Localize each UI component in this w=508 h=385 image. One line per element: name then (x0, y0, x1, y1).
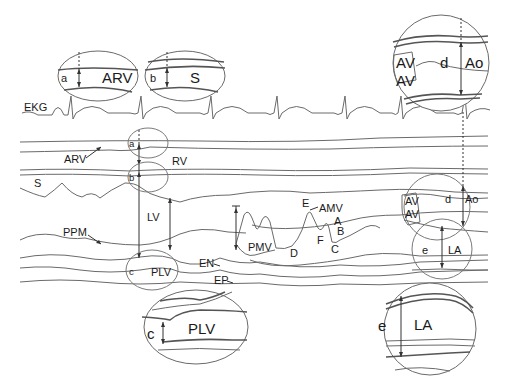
measure-e-label: e (422, 244, 428, 256)
inset-aorta-measure: d (440, 54, 448, 71)
measure-a-label: a (129, 138, 135, 149)
la-label: LA (448, 244, 462, 256)
ppm-label: PPM (63, 226, 87, 238)
inset-aorta-ao: Ao (465, 54, 483, 71)
amv-pointer (310, 207, 318, 210)
mitral-point-b: B (337, 225, 344, 237)
inset-plv-label: PLV (188, 320, 215, 337)
inset-la-label: LA (414, 316, 432, 333)
septum-label: S (34, 177, 41, 189)
ep-label: EP (214, 274, 229, 286)
mitral-point-d: D (290, 247, 298, 259)
mitral-point-c: C (331, 243, 339, 255)
inset-arv-label: ARV (102, 69, 133, 86)
measure-c-label: c (129, 266, 134, 277)
pmv-label: PMV (248, 241, 273, 253)
rv-label: RV (172, 155, 188, 167)
aortic-root-region (402, 174, 488, 240)
en-pointer (214, 264, 220, 266)
ao-label: Ao (465, 193, 478, 205)
plv-label: PLV (151, 266, 172, 278)
inset-la-measure: e (378, 317, 386, 334)
measure-b-label: b (129, 172, 134, 183)
measure-d-label: d (445, 193, 451, 205)
la-wall-line (412, 269, 488, 270)
arv-wall-lines (20, 136, 488, 152)
av-upper-label: AV (405, 195, 420, 207)
inset-plv-measure: c (147, 325, 155, 342)
amv-label: AMV (319, 202, 344, 214)
mitral-point-e: E (302, 197, 309, 209)
lv-label: LV (147, 211, 160, 223)
arv-label: ARV (64, 153, 87, 165)
av-lower-label: AV (405, 208, 420, 220)
ekg-label: EKG (24, 101, 47, 113)
mitral-point-f: F (317, 234, 324, 246)
inset-aorta-av2: AV (396, 72, 415, 89)
en-label: EN (199, 257, 214, 269)
inset-arv-measure: a (61, 72, 68, 84)
m-mode-echo-diagram: EKG ARV RV S PPM EN EP LV a b c PLV (0, 0, 508, 385)
inset-septum-label: S (190, 69, 200, 86)
inset-aorta-av1: AV (396, 54, 415, 71)
inset-septum (145, 51, 225, 101)
inset-septum-measure: b (150, 72, 156, 84)
